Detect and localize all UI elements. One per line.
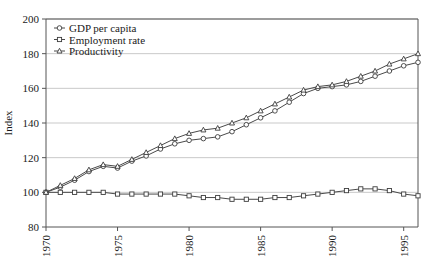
data-point [230,129,235,134]
data-point [101,162,106,167]
legend-label: Productivity [69,45,124,57]
data-point [172,142,177,147]
data-point [215,126,220,131]
data-point [373,187,377,191]
legend-label: GDP per capita [69,22,137,34]
data-point [416,51,421,56]
data-point [158,143,163,148]
data-point [273,195,277,199]
data-point [359,187,363,191]
data-point [273,109,278,114]
data-point [330,190,334,194]
data-point [387,189,391,193]
y-tick-label: 140 [23,117,40,129]
data-point [201,136,206,141]
x-tick-label: 1990 [326,235,338,258]
legend-entry-productivity: Productivity [54,45,124,57]
data-point [73,190,77,194]
legend-marker-icon [57,37,61,41]
series-employment-rate [44,187,420,202]
y-tick-label: 80 [28,221,40,233]
data-point [358,74,363,79]
x-tick-label: 1970 [40,235,52,258]
data-point [230,120,235,125]
legend-label: Employment rate [69,34,145,46]
data-point [201,127,206,132]
data-point [373,68,378,73]
chart-container: 8010012014016018020019701975198019851990… [0,0,436,279]
legend-entry-gdp-per-capita: GDP per capita [54,22,137,34]
data-point [58,190,62,194]
y-tick-label: 160 [23,82,40,94]
data-point [358,79,363,84]
data-point [315,84,320,89]
data-point [187,138,192,143]
data-point [416,60,421,65]
data-point [344,79,349,84]
y-tick-label: 180 [23,48,40,60]
data-point [144,192,148,196]
data-point [387,69,392,74]
data-point [158,192,162,196]
data-point [130,192,134,196]
series-gdp-per-capita [44,60,421,195]
data-point [272,101,277,106]
data-point [330,82,335,87]
data-point [58,183,63,188]
y-tick-label: 100 [23,186,40,198]
y-tick-label: 120 [23,152,40,164]
legend-entry-employment-rate: Employment rate [54,34,145,46]
data-point [144,150,149,155]
y-tick-label: 200 [23,13,40,25]
data-point [201,195,205,199]
data-point [258,116,263,121]
data-point [172,136,177,141]
data-point [173,192,177,196]
data-point [187,194,191,198]
data-point [287,100,292,105]
data-point [244,115,249,120]
x-tick-label: 1980 [183,235,195,258]
data-point [230,197,234,201]
data-point [401,56,406,61]
data-point [72,176,77,181]
data-point [301,194,305,198]
x-tick-label: 1975 [112,235,124,258]
data-point [373,74,378,79]
line-chart: 8010012014016018020019701975198019851990… [0,0,436,279]
data-point [259,197,263,201]
data-point [387,61,392,66]
data-point [115,164,120,169]
x-tick-label: 1995 [398,235,410,258]
data-point [287,195,291,199]
data-point [401,64,406,69]
data-point [402,192,406,196]
data-point [215,135,220,140]
x-tick-label: 1985 [255,235,267,258]
y-axis-title: Index [2,110,14,136]
data-point [216,195,220,199]
data-point [258,108,263,113]
legend-marker-icon [57,26,62,31]
data-point [244,197,248,201]
data-point [87,190,91,194]
data-point [115,192,119,196]
data-point [316,192,320,196]
data-point [101,190,105,194]
data-point [344,189,348,193]
data-point [86,167,91,172]
data-point [416,194,420,198]
legend-marker-icon [57,48,62,53]
data-point [187,131,192,136]
data-point [244,122,249,127]
data-point [287,94,292,99]
